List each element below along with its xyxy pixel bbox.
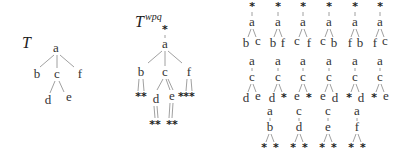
- svg-text:*: *: [326, 0, 332, 13]
- fragments-row-2: a c d e a c d * a c e * a c e: [243, 53, 389, 105]
- svg-text:c: c: [296, 103, 302, 118]
- fragment: c e * *: [319, 103, 337, 154]
- fragment: a c d e: [243, 53, 261, 105]
- svg-text:a: a: [300, 14, 306, 29]
- svg-text:a: a: [354, 103, 360, 118]
- svg-text:*: *: [281, 91, 287, 104]
- svg-text:a: a: [326, 14, 332, 29]
- node-c: c: [162, 64, 168, 79]
- svg-text:c: c: [320, 33, 326, 48]
- b-children: **: [135, 90, 147, 103]
- svg-text:c: c: [352, 69, 358, 84]
- svg-text:*: *: [371, 91, 377, 104]
- svg-text:a: a: [377, 14, 383, 29]
- fragment: c d * *: [290, 103, 308, 154]
- svg-text:a: a: [352, 53, 358, 68]
- node-b: b: [138, 64, 145, 79]
- svg-text:e: e: [255, 88, 261, 103]
- svg-text:*: *: [360, 141, 366, 154]
- svg-text:d: d: [296, 119, 303, 134]
- svg-text:c: c: [377, 69, 383, 84]
- svg-text:c: c: [325, 103, 331, 118]
- svg-text:*: *: [273, 141, 279, 154]
- svg-text:a: a: [275, 53, 281, 68]
- node-a: a: [162, 36, 168, 51]
- tree-twpq-superscript: wpq: [145, 11, 162, 22]
- svg-text:*: *: [346, 91, 352, 104]
- fragment: * a c f: [294, 0, 312, 50]
- tree-t: T a b c f d e: [22, 34, 83, 107]
- fragment: a b * *: [261, 103, 279, 154]
- svg-text:f: f: [355, 119, 360, 134]
- d-children: **: [149, 118, 161, 131]
- svg-text:c: c: [275, 69, 281, 84]
- node-f: f: [78, 66, 83, 81]
- fragment: * a f c: [373, 0, 388, 50]
- svg-text:*: *: [319, 141, 325, 154]
- svg-text:*: *: [300, 0, 306, 13]
- svg-text:c: c: [300, 69, 306, 84]
- svg-text:c: c: [382, 33, 388, 48]
- svg-text:e: e: [294, 88, 300, 103]
- svg-text:*: *: [306, 91, 312, 104]
- node-f: f: [187, 64, 192, 79]
- svg-text:c: c: [255, 33, 261, 48]
- svg-text:*: *: [275, 0, 281, 13]
- node-d: d: [45, 92, 52, 107]
- node-c: c: [54, 66, 60, 81]
- svg-text:d: d: [243, 90, 250, 105]
- svg-text:a: a: [326, 53, 332, 68]
- fragment: a c * d: [346, 53, 365, 105]
- fragment: * a b f: [270, 0, 286, 50]
- fragment: a c e *: [294, 53, 312, 104]
- svg-text:f: f: [348, 35, 353, 50]
- e-children: **: [166, 118, 178, 131]
- svg-text:a: a: [352, 14, 358, 29]
- svg-text:a: a: [377, 53, 383, 68]
- svg-text:b: b: [357, 35, 364, 50]
- svg-text:e: e: [383, 88, 389, 103]
- svg-text:*: *: [249, 0, 255, 13]
- svg-text:a: a: [249, 53, 255, 68]
- fragment: * a f b: [348, 0, 363, 50]
- tree-diagram: T a b c f d e T wpq * a b c f ** ** d e: [0, 0, 416, 160]
- fragment: a c d *: [269, 53, 287, 105]
- f-children: **: [183, 90, 195, 103]
- node-b: b: [34, 66, 41, 81]
- svg-text:f: f: [281, 35, 286, 50]
- fragment: * a b c: [243, 0, 261, 50]
- svg-text:b: b: [267, 119, 274, 134]
- tree-twpq-title: T: [135, 13, 145, 30]
- node-d: d: [153, 91, 160, 106]
- svg-text:*: *: [302, 141, 308, 154]
- svg-text:b: b: [331, 35, 338, 50]
- svg-text:b: b: [270, 35, 277, 50]
- fragment: a c * e: [371, 53, 389, 104]
- svg-text:a: a: [300, 53, 306, 68]
- svg-text:c: c: [326, 69, 332, 84]
- svg-text:f: f: [307, 35, 312, 50]
- svg-text:e: e: [325, 119, 331, 134]
- node-a: a: [53, 40, 59, 55]
- svg-text:a: a: [267, 103, 273, 118]
- svg-text:*: *: [377, 0, 383, 13]
- fragment: a f * *: [348, 103, 366, 154]
- e-extra: *: [178, 90, 184, 103]
- svg-text:*: *: [331, 141, 337, 154]
- svg-text:*: *: [290, 141, 296, 154]
- svg-text:*: *: [348, 141, 354, 154]
- root-marker: *: [162, 23, 168, 36]
- fragments-row-3: a b * * c d * * c e * * a f *: [261, 103, 366, 154]
- node-e: e: [66, 89, 72, 104]
- node-e: e: [169, 88, 175, 103]
- svg-text:b: b: [243, 35, 250, 50]
- svg-text:e: e: [320, 88, 326, 103]
- svg-text:c: c: [249, 69, 255, 84]
- fragments-row-1: * a b c * a b f * a c f * a c: [243, 0, 388, 50]
- svg-text:d: d: [332, 90, 339, 105]
- svg-text:f: f: [373, 35, 378, 50]
- fragment: a c e d: [320, 53, 339, 105]
- svg-text:*: *: [352, 0, 358, 13]
- tree-t-title: T: [22, 34, 32, 51]
- fragment: * a c b: [320, 0, 337, 50]
